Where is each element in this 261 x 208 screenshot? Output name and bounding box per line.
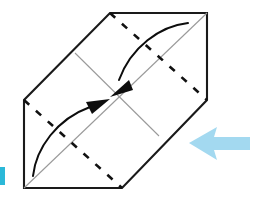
figure-canvas	[0, 0, 261, 208]
left-edge-marker	[0, 167, 5, 185]
origami-fold-figure	[0, 0, 261, 208]
next-step-arrow	[189, 127, 250, 160]
